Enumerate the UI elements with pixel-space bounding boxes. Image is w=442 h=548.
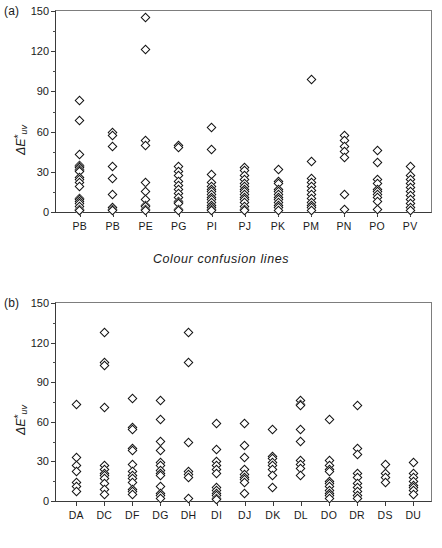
data-point (184, 493, 194, 503)
y-tick-mark (51, 11, 56, 12)
x-tick-label: DH (181, 509, 197, 521)
data-point (352, 450, 362, 460)
x-tick-label: PN (337, 220, 352, 232)
x-tick-label: DK (265, 509, 280, 521)
data-point (339, 204, 349, 214)
x-tick-label: DU (405, 509, 421, 521)
x-tick-label: PI (207, 220, 218, 232)
x-tick-mark (301, 501, 302, 506)
x-tick-mark (245, 501, 246, 506)
data-point (268, 471, 278, 481)
x-tick-mark (385, 501, 386, 506)
y-tick-mark (51, 422, 56, 423)
data-point (296, 437, 306, 447)
y-tick-mark (51, 212, 56, 213)
x-tick-label: DS (378, 509, 393, 521)
y-tick-mark (51, 303, 56, 304)
data-point (141, 13, 151, 23)
y-tick-mark (51, 461, 56, 462)
data-point (240, 488, 250, 498)
x-tick-label: PE (139, 220, 154, 232)
x-tick-label: DA (69, 509, 84, 521)
x-tick-mark (104, 501, 105, 506)
data-point (408, 458, 418, 468)
x-tick-label: DI (211, 509, 222, 521)
x-tick-label: PG (171, 220, 187, 232)
x-tick-label: PK (271, 220, 286, 232)
data-point (296, 425, 306, 435)
data-point (296, 471, 306, 481)
data-point (71, 467, 81, 477)
data-point (75, 116, 85, 126)
data-point (273, 164, 283, 174)
x-tick-label: DL (294, 509, 308, 521)
data-point (372, 157, 382, 167)
y-tick-mark (51, 172, 56, 173)
data-point (268, 425, 278, 435)
y-tick-mark (51, 91, 56, 92)
data-point (156, 396, 166, 406)
y-tick-mark-minor (53, 442, 56, 443)
y-tick-mark-minor (53, 112, 56, 113)
x-tick-label: DF (125, 509, 140, 521)
x-tick-label: PJ (239, 220, 252, 232)
y-tick-mark-minor (53, 362, 56, 363)
data-point (174, 206, 184, 216)
data-point (268, 483, 278, 493)
x-tick-label: DG (152, 509, 168, 521)
data-point (156, 414, 166, 424)
data-point (372, 145, 382, 155)
data-point (71, 400, 81, 410)
data-point (141, 45, 151, 55)
panel-b: (b) ΔE*uv 0306090120150DADCDFDGDHDIDJDKD… (0, 292, 442, 548)
data-point (108, 141, 118, 151)
y-axis-label-a: ΔE*uv (13, 125, 29, 155)
x-tick-label: DO (321, 509, 337, 521)
data-point (339, 190, 349, 200)
x-tick-mark (413, 501, 414, 506)
plot-area-a: 0306090120150PBPBPEPGPIPJPKPMPNPOPV (55, 10, 432, 213)
x-tick-label: PB (106, 220, 121, 232)
data-point (156, 446, 166, 456)
data-point (352, 401, 362, 411)
data-point (108, 161, 118, 171)
data-point (324, 414, 334, 424)
y-tick-mark-minor (53, 323, 56, 324)
data-point (306, 74, 316, 84)
y-tick-mark (51, 382, 56, 383)
x-tick-mark (132, 501, 133, 506)
data-point (108, 174, 118, 184)
data-point (240, 441, 250, 451)
y-tick-mark (51, 343, 56, 344)
panel-b-label: (b) (4, 296, 19, 310)
data-point (212, 445, 222, 455)
x-tick-label: PO (369, 220, 385, 232)
y-axis-label-b: ΔE*uv (13, 405, 29, 435)
data-point (306, 156, 316, 166)
y-tick-mark-minor (53, 71, 56, 72)
x-axis-caption-a: Colour confusion lines (0, 252, 442, 266)
data-point (212, 418, 222, 428)
plot-area-b: 0306090120150DADCDFDGDHDIDJDKDLDODRDSDU (55, 302, 432, 502)
data-point (75, 96, 85, 106)
y-tick-mark-minor (53, 192, 56, 193)
y-tick-mark (51, 132, 56, 133)
figure-container: (a) ΔE*uv 0306090120150PBPBPEPGPIPJPKPMP… (0, 0, 442, 548)
x-tick-label: PV (403, 220, 418, 232)
data-point (99, 402, 109, 412)
data-point (240, 418, 250, 428)
data-point (207, 123, 217, 133)
data-point (240, 452, 250, 462)
y-tick-mark-minor (53, 402, 56, 403)
panel-a: (a) ΔE*uv 0306090120150PBPBPEPGPIPJPKPMP… (0, 0, 442, 280)
y-tick-mark-minor (53, 481, 56, 482)
y-tick-mark (51, 51, 56, 52)
x-tick-label: PB (72, 220, 87, 232)
panel-a-label: (a) (4, 4, 19, 18)
x-tick-label: DJ (238, 509, 251, 521)
data-point (127, 393, 137, 403)
data-point (372, 204, 382, 214)
x-tick-mark (76, 501, 77, 506)
data-point (339, 152, 349, 162)
data-point (75, 149, 85, 159)
